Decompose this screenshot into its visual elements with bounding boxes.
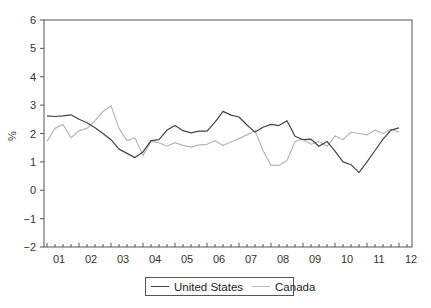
y-tick-label: −1 <box>23 213 36 225</box>
x-tick-label: 08 <box>277 253 289 265</box>
x-tick-label: 12 <box>405 253 417 265</box>
x-tick-label: 06 <box>213 253 225 265</box>
y-tick-label: 4 <box>30 71 36 83</box>
x-axis: 010203040506070809101112 <box>47 243 417 265</box>
y-axis: −2−10123456 <box>23 14 44 253</box>
y-tick-label: 6 <box>30 14 36 26</box>
y-tick-label: −2 <box>23 241 36 253</box>
x-tick-label: 09 <box>309 253 321 265</box>
x-tick-label: 05 <box>181 253 193 265</box>
legend-item-canada: Canada <box>252 281 315 293</box>
y-tick-label: 0 <box>30 184 36 196</box>
legend-item-united-states: United States <box>151 281 243 293</box>
x-tick-label: 10 <box>341 253 353 265</box>
x-tick-label: 04 <box>149 253 161 265</box>
y-tick-label: 2 <box>30 128 36 140</box>
y-tick-label: 1 <box>30 156 36 168</box>
series-layer <box>47 106 399 173</box>
series-line-united-states <box>47 111 399 172</box>
legend-swatch-canada <box>252 286 270 287</box>
x-tick-label: 03 <box>117 253 129 265</box>
x-tick-label: 01 <box>53 253 65 265</box>
series-line-canada <box>47 106 399 166</box>
legend-label: United States <box>174 281 243 293</box>
y-tick-label: 3 <box>30 99 36 111</box>
x-tick-label: 02 <box>85 253 97 265</box>
legend: United States Canada <box>145 277 294 296</box>
line-chart: −2−10123456 010203040506070809101112 % <box>0 0 431 308</box>
y-axis-label: % <box>6 131 18 141</box>
x-tick-label: 11 <box>373 253 384 265</box>
legend-swatch-united-states <box>151 286 169 287</box>
x-tick-label: 07 <box>245 253 257 265</box>
y-tick-label: 5 <box>30 42 36 54</box>
legend-label: Canada <box>275 281 315 293</box>
